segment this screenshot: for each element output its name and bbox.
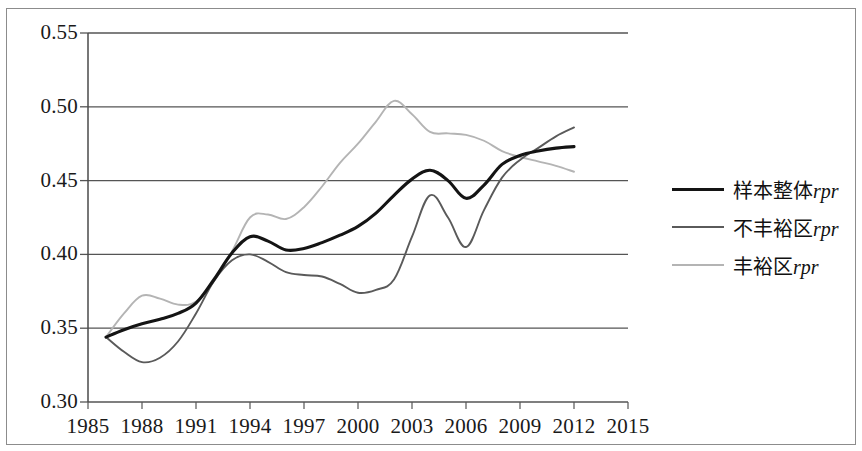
x-tick-label: 2012: [544, 414, 604, 439]
x-tick-label: 1985: [58, 414, 118, 439]
legend-label-cn: 样本整体: [733, 180, 813, 202]
legend-item: 不丰裕区rpr: [672, 208, 858, 246]
x-tick-marks-group: [88, 402, 628, 409]
x-tick-label: 1997: [274, 414, 334, 439]
legend-label-rpr: rpr: [813, 180, 839, 202]
legend-label-rpr: rpr: [793, 256, 819, 278]
legend-label: 不丰裕区rpr: [733, 213, 839, 242]
legend-label: 丰裕区rpr: [733, 251, 819, 280]
x-tick-label: 2015: [598, 414, 658, 439]
y-tick-label: 0.40: [12, 241, 78, 266]
legend-line-swatch: [672, 188, 724, 191]
x-tick-label: 2009: [490, 414, 550, 439]
legend-line-swatch: [672, 226, 724, 228]
y-tick-label: 0.55: [12, 20, 78, 45]
legend-line-swatch: [672, 264, 724, 266]
x-tick-label: 1994: [220, 414, 280, 439]
x-tick-label: 2006: [436, 414, 496, 439]
x-tick-label: 1988: [112, 414, 172, 439]
legend-item: 丰裕区rpr: [672, 246, 858, 284]
data-series-group: [106, 101, 574, 363]
x-tick-label: 2003: [382, 414, 442, 439]
y-tick-label: 0.35: [12, 315, 78, 340]
gridlines-group: [80, 33, 628, 402]
series-line: [106, 101, 574, 337]
x-tick-label: 2000: [328, 414, 388, 439]
chart-legend: 样本整体rpr不丰裕区rpr丰裕区rpr: [672, 170, 858, 284]
legend-label: 样本整体rpr: [733, 175, 839, 204]
x-tick-label: 1991: [166, 414, 226, 439]
y-tick-label: 0.45: [12, 168, 78, 193]
legend-label-rpr: rpr: [813, 218, 839, 240]
legend-item: 样本整体rpr: [672, 170, 858, 208]
y-tick-label: 0.30: [12, 389, 78, 414]
legend-label-cn: 不丰裕区: [733, 218, 813, 240]
legend-label-cn: 丰裕区: [733, 256, 793, 278]
chart-figure: 0.550.500.450.400.350.30 198519881991199…: [0, 0, 862, 451]
y-tick-label: 0.50: [12, 94, 78, 119]
